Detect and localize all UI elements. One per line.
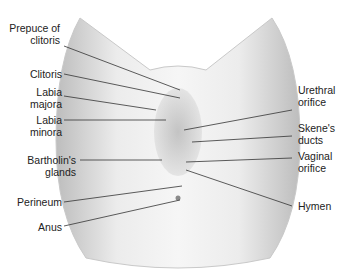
label-line: orifice	[298, 96, 335, 108]
label-bartholins-glands: Bartholin's glands	[27, 154, 76, 178]
anatomy-diagram: Prepuce of clitoris Clitoris Labia major…	[0, 0, 356, 273]
label-line: clitoris	[9, 34, 60, 46]
label-line: orifice	[298, 162, 332, 174]
label-line: ducts	[298, 134, 335, 146]
label-line: Hymen	[298, 200, 331, 212]
label-line: glands	[27, 166, 76, 178]
label-clitoris: Clitoris	[30, 68, 62, 80]
label-urethral-orifice: Urethral orifice	[298, 84, 335, 108]
label-hymen: Hymen	[298, 200, 331, 212]
label-line: minora	[30, 126, 62, 138]
label-prepuce-of-clitoris: Prepuce of clitoris	[9, 22, 60, 46]
label-line: Urethral	[298, 84, 335, 96]
label-perineum: Perineum	[17, 196, 62, 208]
label-line: Vaginal	[298, 150, 332, 162]
label-line: Labia	[30, 86, 62, 98]
central-region	[154, 88, 202, 176]
label-line: Prepuce of	[9, 22, 60, 34]
label-anus: Anus	[38, 221, 62, 233]
label-line: Bartholin's	[27, 154, 76, 166]
label-line: Clitoris	[30, 68, 62, 80]
label-skenes-ducts: Skene's ducts	[298, 122, 335, 146]
label-line: Skene's	[298, 122, 335, 134]
label-labia-minora: Labia minora	[30, 114, 62, 138]
label-line: Labia	[30, 114, 62, 126]
label-labia-majora: Labia majora	[30, 86, 62, 110]
label-line: Perineum	[17, 196, 62, 208]
label-vaginal-orifice: Vaginal orifice	[298, 150, 332, 174]
label-line: Anus	[38, 221, 62, 233]
label-line: majora	[30, 98, 62, 110]
